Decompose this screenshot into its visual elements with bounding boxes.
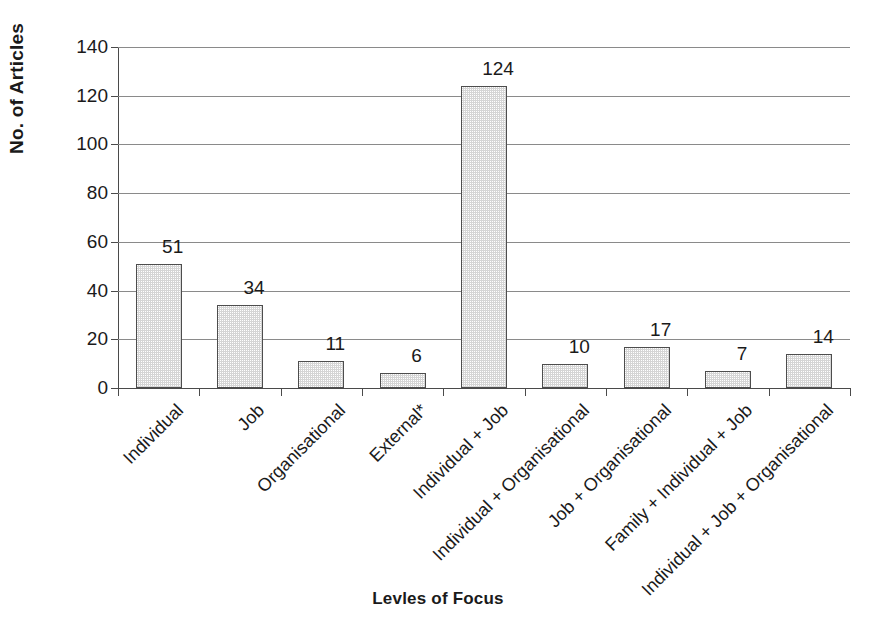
y-tick-label: 0 xyxy=(97,377,108,399)
bar-chart-figure: No. of Articles 140120100806040200 51341… xyxy=(0,0,876,628)
x-category-label: Family + Individual + Job xyxy=(601,400,757,556)
bar xyxy=(461,86,507,388)
x-category-label: External* xyxy=(365,400,432,467)
bar xyxy=(380,373,426,388)
bar-value-label: 17 xyxy=(650,319,671,341)
bar xyxy=(217,305,263,388)
x-axis-line xyxy=(118,388,850,389)
x-tick-mark xyxy=(687,388,688,396)
x-axis-title: Levles of Focus xyxy=(0,589,876,609)
x-category-label: Job xyxy=(233,400,268,435)
bar xyxy=(136,264,182,388)
bar xyxy=(542,364,588,388)
bar-value-label: 6 xyxy=(411,345,422,367)
x-tick-mark xyxy=(199,388,200,396)
y-tick-label: 80 xyxy=(87,182,108,204)
bar-value-label: 124 xyxy=(482,58,514,80)
bar-value-label: 34 xyxy=(243,277,264,299)
y-tick-label: 120 xyxy=(76,85,108,107)
gridline xyxy=(118,47,850,48)
y-tick-label: 60 xyxy=(87,231,108,253)
bar-value-label: 7 xyxy=(737,343,748,365)
x-tick-mark xyxy=(850,388,851,396)
plot-area xyxy=(118,47,850,388)
x-tick-mark xyxy=(443,388,444,396)
x-tick-mark xyxy=(606,388,607,396)
bar-value-label: 14 xyxy=(813,326,834,348)
bar xyxy=(298,361,344,388)
y-tick-label: 100 xyxy=(76,133,108,155)
x-tick-mark xyxy=(281,388,282,396)
bar xyxy=(624,347,670,388)
y-tick-label: 40 xyxy=(87,280,108,302)
x-tick-mark xyxy=(362,388,363,396)
x-category-label: Individual + Organisational xyxy=(429,400,594,565)
bar xyxy=(705,371,751,388)
x-category-label: Individual xyxy=(119,400,188,469)
x-tick-mark xyxy=(769,388,770,396)
y-tick-label: 140 xyxy=(76,36,108,58)
y-axis-title: No. of Articles xyxy=(6,0,40,154)
x-tick-mark xyxy=(525,388,526,396)
y-tick-label: 20 xyxy=(87,328,108,350)
bar-value-label: 10 xyxy=(569,336,590,358)
bar-value-label: 51 xyxy=(162,236,183,258)
bar-value-label: 11 xyxy=(325,333,345,355)
x-tick-mark xyxy=(118,388,119,396)
bar xyxy=(786,354,832,388)
